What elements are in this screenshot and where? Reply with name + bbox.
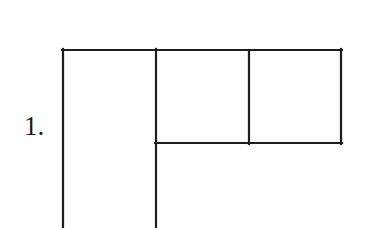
rectangle-partition-diagram: [0, 0, 377, 228]
worksheet-page: 1.: [0, 0, 377, 228]
figure-line-group: [62, 49, 342, 228]
